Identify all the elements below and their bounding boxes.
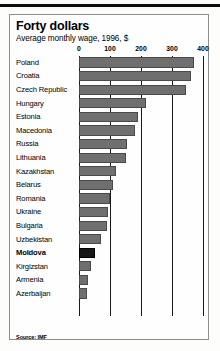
bar (79, 85, 186, 95)
bar-row: Macedonia (16, 124, 204, 138)
bar-row: Romania (16, 192, 204, 206)
x-tick-label: 300 (166, 45, 177, 52)
bar-row-label: Kirgizstan (16, 263, 79, 271)
bar-row-label: Macedonia (16, 127, 79, 135)
bar-track (79, 56, 204, 70)
bar-row: Bulgaria (16, 219, 204, 233)
x-tick-label: 200 (135, 45, 146, 52)
bar-track (79, 206, 204, 220)
bar-row-label: Belarus (16, 181, 79, 189)
bar-track (79, 287, 204, 301)
bar-row-label: Romania (16, 195, 79, 203)
bar-track (79, 260, 204, 274)
bar-row-label: Moldova (16, 249, 79, 257)
chart-title: Forty dollars (16, 20, 202, 33)
bar-row-label: Armenia (16, 276, 79, 284)
bar-row: Armenia (16, 274, 204, 288)
bar-row: Croatia (16, 70, 204, 84)
bar-row-label: Estonia (16, 113, 79, 121)
bar-row: Belarus (16, 178, 204, 192)
bar (79, 221, 107, 231)
bar (79, 166, 116, 176)
bar (79, 98, 146, 108)
plot-area: 0100200300400 PolandCroatiaCzech Republi… (16, 45, 204, 333)
bar (79, 112, 138, 122)
bar-row-label: Hungary (16, 100, 79, 108)
bar-track (79, 178, 204, 192)
bar-row: Kazakhstan (16, 165, 204, 179)
bar-row: Ukraine (16, 206, 204, 220)
bar-track (79, 192, 204, 206)
bar-row-label: Russia (16, 140, 79, 148)
bar-track (79, 138, 204, 152)
x-axis-tick-labels: 0100200300400 (16, 45, 204, 56)
top-rule-divider (0, 4, 220, 7)
chart-page: Forty dollars Average monthly wage, 1996… (0, 0, 220, 351)
bar-track (79, 83, 204, 97)
bar (79, 139, 127, 149)
x-tick-label: 100 (104, 45, 115, 52)
bar (79, 248, 95, 258)
bar-row-label: Poland (16, 59, 79, 67)
chart-subtitle: Average monthly wage, 1996, $ (16, 34, 202, 44)
bar (79, 125, 135, 135)
bar-row-label: Croatia (16, 72, 79, 80)
bar (79, 207, 108, 217)
bar-row: Lithuania (16, 151, 204, 165)
bar (79, 193, 110, 203)
bar-row: Uzbekistan (16, 233, 204, 247)
bar-row-label: Czech Republic (16, 86, 79, 94)
bar-row: Kirgizstan (16, 260, 204, 274)
bar-track (79, 219, 204, 233)
bar (79, 71, 191, 81)
bar-rows-container: PolandCroatiaCzech RepublicHungaryEstoni… (16, 56, 204, 324)
bar-row-label: Azerbaijan (16, 290, 79, 298)
bar-row-label: Lithuania (16, 154, 79, 162)
bar-row-label: Bulgaria (16, 222, 79, 230)
bar (79, 288, 87, 298)
bar (79, 180, 113, 190)
bar-row-label: Uzbekistan (16, 236, 79, 244)
bar-track (79, 151, 204, 165)
bar-track (79, 246, 204, 260)
bar-track (79, 165, 204, 179)
bar-track (79, 97, 204, 111)
bar-row: Czech Republic (16, 83, 204, 97)
bar-track (79, 124, 204, 138)
bar (79, 57, 194, 67)
chart-panel: Forty dollars Average monthly wage, 1996… (9, 14, 209, 340)
x-tick-label: 400 (197, 45, 208, 52)
x-tick-label: 0 (77, 45, 81, 52)
bar (79, 153, 126, 163)
bar-track (79, 274, 204, 288)
bar (79, 234, 101, 244)
bar-track (79, 70, 204, 84)
bar-track (79, 233, 204, 247)
bar (79, 261, 91, 271)
bar-row-label: Ukraine (16, 208, 79, 216)
bar-row: Azerbaijan (16, 287, 204, 301)
bar-track (79, 110, 204, 124)
bar-row-label: Kazakhstan (16, 168, 79, 176)
bar-row: Poland (16, 56, 204, 70)
bar-row: Moldova (16, 246, 204, 260)
bar-row: Estonia (16, 110, 204, 124)
bar-row: Hungary (16, 97, 204, 111)
bar-row: Russia (16, 138, 204, 152)
source-note: Source: IMF (16, 334, 202, 340)
bar (79, 275, 88, 285)
